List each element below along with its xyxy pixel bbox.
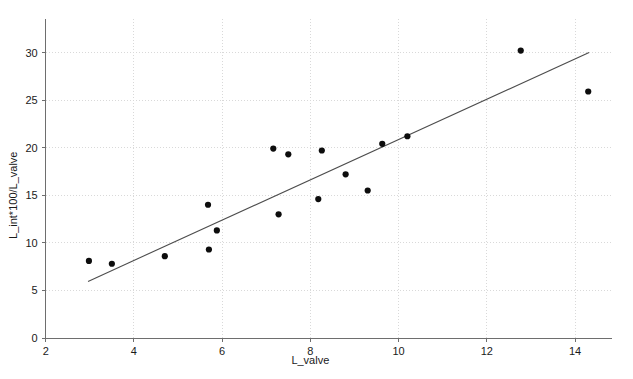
data-point <box>86 258 92 264</box>
data-point <box>275 211 281 217</box>
data-point <box>343 171 349 177</box>
data-point <box>109 261 115 267</box>
y-tick-label: 30 <box>25 47 37 59</box>
y-tick-label: 0 <box>32 332 38 344</box>
y-tick-label: 5 <box>32 284 38 296</box>
data-point <box>315 196 321 202</box>
x-tick-label: 14 <box>569 345 581 357</box>
data-point <box>518 47 524 53</box>
x-tick-label: 6 <box>219 345 225 357</box>
y-tick-label: 10 <box>25 237 37 249</box>
chart-canvas: 0510152025302468101214L_valveL_int*100/L… <box>0 0 633 379</box>
axes-group <box>42 19 613 342</box>
trend-line-group <box>88 53 589 282</box>
y-axis-title: L_int*100/L_valve <box>7 152 19 239</box>
y-tick-label: 25 <box>25 94 37 106</box>
data-point <box>319 147 325 153</box>
data-point <box>206 246 212 252</box>
scatter-plot-figure: 0510152025302468101214L_valveL_int*100/L… <box>0 0 633 379</box>
x-tick-label: 4 <box>131 345 137 357</box>
data-point <box>205 202 211 208</box>
x-axis-title: L_valve <box>291 354 329 366</box>
data-point <box>379 141 385 147</box>
trend-line <box>88 53 589 282</box>
data-point <box>585 88 591 94</box>
data-points-group <box>86 47 592 266</box>
y-tick-label: 15 <box>25 189 37 201</box>
x-tick-label: 2 <box>43 345 49 357</box>
data-point <box>214 227 220 233</box>
gridlines-group <box>46 19 613 338</box>
data-point <box>365 187 371 193</box>
x-tick-label: 10 <box>392 345 404 357</box>
axis-titles-group: L_valveL_int*100/L_valve <box>7 152 329 366</box>
tick-labels-group: 0510152025302468101214 <box>25 47 581 358</box>
data-point <box>404 133 410 139</box>
data-point <box>270 146 276 152</box>
y-tick-label: 20 <box>25 142 37 154</box>
data-point <box>285 151 291 157</box>
data-point <box>162 253 168 259</box>
x-tick-label: 12 <box>481 345 493 357</box>
